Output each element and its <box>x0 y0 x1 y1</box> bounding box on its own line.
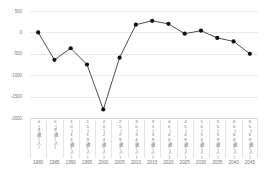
category-label-text: 35〜39歳(人) <box>150 118 155 158</box>
data-point-marker <box>117 56 121 60</box>
category-label-text: 40〜44歳(人) <box>166 118 171 158</box>
data-point-marker <box>85 62 89 66</box>
category-label-text: 45〜49歳(人) <box>183 118 188 158</box>
category-label-cell: 50〜54歳(人) <box>193 118 209 158</box>
data-point-marker <box>199 29 203 33</box>
x-axis-tick-label: 2000 <box>95 160 111 166</box>
line-chart: 5000-500-1000-1500-2000 0〜4歳(人)5〜9歳(人)10… <box>0 0 266 182</box>
x-axis-tick-label: 2035 <box>209 160 225 166</box>
data-series-line <box>30 11 258 118</box>
x-axis-tick-label: 1980 <box>30 160 46 166</box>
category-label-text: 15〜19歳(人) <box>85 118 90 158</box>
x-axis-tick-label: 1995 <box>79 160 95 166</box>
data-point-marker <box>134 23 138 27</box>
x-axis-tick-label: 2025 <box>177 160 193 166</box>
data-point-marker <box>101 107 105 111</box>
x-axis-tick-label: 1990 <box>63 160 79 166</box>
category-label-cell: 40〜44歳(人) <box>160 118 176 158</box>
category-label-cell: 30〜34歳(人) <box>128 118 144 158</box>
x-axis-tick-label: 2045 <box>242 160 258 166</box>
category-label-cell: 10〜14歳(人) <box>63 118 79 158</box>
x-axis-tick-label: 2015 <box>144 160 160 166</box>
category-label-cell: 5〜9歳(人) <box>46 118 62 158</box>
y-axis-tick-label: -500 <box>0 51 22 56</box>
category-label-cell: 0〜4歳(人) <box>30 118 46 158</box>
category-label-cell: 45〜49歳(人) <box>177 118 193 158</box>
category-label-text: 10〜14歳(人) <box>69 118 74 158</box>
y-axis-tick-label: 500 <box>0 9 22 14</box>
category-label-text: 30〜34歳(人) <box>134 118 139 158</box>
plot-area: 5000-500-1000-1500-2000 <box>30 11 258 118</box>
series-polyline <box>38 21 250 110</box>
category-label-text: 55〜59歳(人) <box>215 118 220 158</box>
x-axis-tick-label: 1985 <box>46 160 62 166</box>
data-point-marker <box>183 32 187 36</box>
data-point-marker <box>248 52 252 56</box>
x-axis-year-labels: 1980198519901995200020052010201520202025… <box>30 160 258 170</box>
category-label-cell: 15〜19歳(人) <box>79 118 95 158</box>
category-label-text: 60〜64歳(人) <box>231 118 236 158</box>
category-label-cell: 20〜24歳(人) <box>95 118 111 158</box>
data-point-marker <box>231 39 235 43</box>
data-point-marker <box>52 58 56 62</box>
y-axis-tick-label: 0 <box>0 30 22 35</box>
data-point-marker <box>150 19 154 23</box>
category-axis-band: 0〜4歳(人)5〜9歳(人)10〜14歳(人)15〜19歳(人)20〜24歳(人… <box>30 118 258 158</box>
data-point-marker <box>36 30 40 34</box>
y-axis-tick-label: -1000 <box>0 73 22 78</box>
category-label-text: 65〜69歳(人) <box>247 118 252 158</box>
category-label-cell: 25〜29歳(人) <box>111 118 127 158</box>
data-point-marker <box>69 46 73 50</box>
category-label-cell: 35〜39歳(人) <box>144 118 160 158</box>
category-label-text: 25〜29歳(人) <box>117 118 122 158</box>
category-label-cell: 60〜64歳(人) <box>225 118 241 158</box>
category-label-text: 0〜4歳(人) <box>36 118 41 149</box>
x-axis-tick-label: 2020 <box>160 160 176 166</box>
category-label-cell: 65〜69歳(人) <box>242 118 258 158</box>
x-axis-tick-label: 2010 <box>128 160 144 166</box>
x-axis-tick-label: 2005 <box>111 160 127 166</box>
category-label-text: 5〜9歳(人) <box>52 118 57 149</box>
x-axis-tick-label: 2040 <box>225 160 241 166</box>
x-axis-tick-label: 2030 <box>193 160 209 166</box>
data-point-marker <box>166 22 170 26</box>
category-label-text: 50〜54歳(人) <box>199 118 204 158</box>
data-point-marker <box>215 36 219 40</box>
category-label-cell: 55〜59歳(人) <box>209 118 225 158</box>
category-label-text: 20〜24歳(人) <box>101 118 106 158</box>
y-axis-tick-label: -2000 <box>0 116 22 121</box>
y-axis-tick-label: -1500 <box>0 94 22 99</box>
